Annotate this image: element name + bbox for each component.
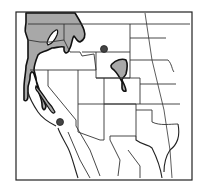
southern-california-point-marker	[57, 119, 64, 126]
range-map	[0, 0, 199, 190]
wyoming-point-marker	[101, 46, 108, 53]
map-svg	[0, 0, 199, 190]
